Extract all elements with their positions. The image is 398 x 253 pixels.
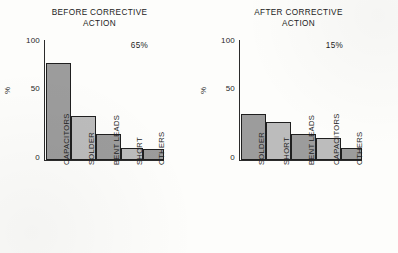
cat-label-bent-leads-after: BENT LEADS [307, 115, 316, 165]
y-tick-50-before: 50 [16, 84, 40, 93]
y-tick-100-after: 100 [211, 36, 235, 45]
scanned-page: BEFORE CORRECTIVE ACTION 65% 100 50 0 % [0, 0, 398, 253]
y-tick-100-before: 100 [16, 36, 40, 45]
cat-label-solder-after: SOLDER [257, 132, 266, 165]
y-tick-0-before: 0 [16, 153, 40, 162]
cat-label-capacitors-after: CAPACITORS [332, 113, 341, 165]
cat-label-others-before: OTHERS [157, 132, 166, 165]
cat-label-short-after: SHORT [282, 137, 291, 165]
chart-panel-before: BEFORE CORRECTIVE ACTION 65% 100 50 0 % [0, 0, 199, 253]
y-tick-50-after: 50 [211, 84, 235, 93]
chart-panel-after: AFTER CORRECTIVE ACTION 15% 100 50 0 % [199, 0, 398, 253]
plot-area-after: 100 50 0 % SOLDER SHORT BENT LEADS CAPAC… [199, 0, 398, 253]
cat-label-bent-leads-before: BENT LEADS [112, 115, 121, 165]
cat-label-others-after: OTHERS [355, 132, 364, 165]
y-axis-label-after: % [199, 87, 208, 94]
y-tick-0-after: 0 [211, 153, 235, 162]
cat-label-capacitors-before: CAPACITORS [62, 113, 71, 165]
charts-row: BEFORE CORRECTIVE ACTION 65% 100 50 0 % [0, 0, 398, 253]
y-axis-label-before: % [3, 87, 12, 94]
cat-label-solder-before: SOLDER [87, 132, 96, 165]
plot-area-before: 100 50 0 % CAPACITORS SOLDER BENT LEADS … [0, 0, 199, 253]
cat-label-short-before: SHORT [135, 137, 144, 165]
